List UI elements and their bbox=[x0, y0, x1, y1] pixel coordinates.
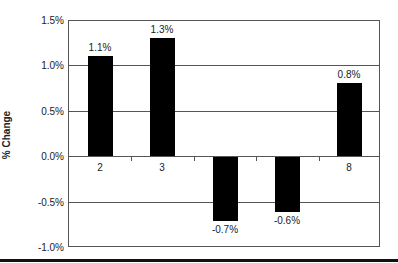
bar-1 bbox=[88, 56, 113, 156]
bar-5 bbox=[337, 83, 362, 156]
gridline bbox=[69, 20, 379, 21]
y-tick-neg0.5: -0.5% bbox=[38, 197, 64, 208]
gridline bbox=[69, 246, 379, 247]
value-label-1: 1.1% bbox=[89, 42, 112, 53]
y-tick-0.5: 0.5% bbox=[41, 106, 64, 117]
value-label-2: 1.3% bbox=[151, 24, 174, 35]
value-label-3: -0.7% bbox=[212, 224, 238, 235]
x-tickmark bbox=[131, 157, 132, 161]
bar-4 bbox=[275, 157, 300, 212]
plot-area: 1.1% 2 1.3% 3 -0.7% -0.6% 0.8% 8 bbox=[68, 20, 380, 247]
bar-2 bbox=[150, 38, 175, 156]
x-tickmark bbox=[319, 157, 320, 161]
value-label-4: -0.6% bbox=[274, 215, 300, 226]
y-axis-label: % Change bbox=[1, 111, 12, 159]
x-tick-5: 8 bbox=[346, 162, 352, 173]
bottom-border bbox=[0, 259, 398, 262]
bar-3 bbox=[213, 157, 238, 221]
x-tick-2: 3 bbox=[159, 162, 165, 173]
x-tickmark bbox=[194, 157, 195, 161]
x-tickmark bbox=[256, 157, 257, 161]
gridline bbox=[69, 65, 379, 66]
y-tick-1.5: 1.5% bbox=[41, 15, 64, 26]
y-tick-0.0: 0.0% bbox=[41, 151, 64, 162]
y-tick-neg1.0: -1.0% bbox=[38, 242, 64, 253]
value-label-5: 0.8% bbox=[338, 69, 361, 80]
y-tick-1.0: 1.0% bbox=[41, 60, 64, 71]
gridline bbox=[69, 111, 379, 112]
x-tick-1: 2 bbox=[97, 162, 103, 173]
